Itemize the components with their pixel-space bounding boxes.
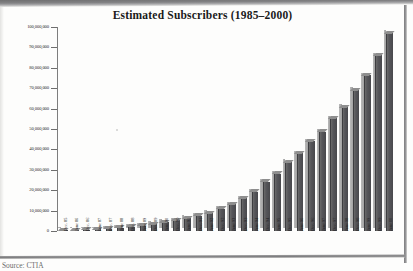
x-axis-tick-label: June 88 [119,218,124,231]
y-axis-tick-label: 40,000,000 [3,146,49,151]
scan-page-top-edge [0,0,413,7]
bar [317,132,326,231]
x-axis-tick-label: Dec. 87 [108,218,113,231]
y-axis-tick [51,149,57,150]
x-axis-tick-label: Dec. 95 [287,218,292,231]
x-axis-tick-label: June 92 [209,218,214,231]
bar-front-face [319,132,326,231]
bar-front-face [386,33,393,231]
x-axis-tick-label: June 95 [276,218,281,231]
y-axis-tick-label: 30,000,000 [3,167,49,172]
x-axis-tick-label: June 93 [231,218,236,231]
bar-front-face [353,90,360,231]
y-axis-tick [51,190,57,191]
y-axis-tick-label: 80,000,000 [3,65,49,70]
y-axis-tick-label: 90,000,000 [3,44,49,49]
bar [350,90,359,231]
x-axis-tick-label: June 97 [321,218,326,231]
bar [373,55,382,231]
x-axis-tick-label: June 94 [254,218,259,231]
x-axis-tick-label: June 00 [388,218,393,231]
x-axis-labels: Dec. 85June 86Dec. 86June 87Dec. 87June … [57,231,405,265]
bar [339,107,348,231]
y-axis-tick [51,109,57,110]
x-axis-tick-label: Dec. 98 [355,218,360,231]
y-axis-tick [51,88,57,89]
y-axis-tick-label: 0 [3,228,49,233]
y-axis-tick-label: 60,000,000 [3,106,49,111]
x-axis-tick-label: Dec. 90 [175,218,180,231]
x-axis-tick-label: Dec. 94 [265,218,270,231]
bar [361,75,370,231]
y-axis-tick [51,211,57,212]
bar-front-face [364,75,371,231]
x-axis-tick-label: June 91 [186,218,191,231]
y-axis-tick [51,170,57,171]
y-axis-tick-label: 20,000,000 [3,187,49,192]
x-axis-tick-label: Dec. 86 [85,218,90,231]
x-axis-tick-label: June 98 [344,218,349,231]
y-axis-tick [51,68,57,69]
y-axis-tick [51,27,57,28]
y-axis-tick-label: 50,000,000 [3,126,49,131]
x-axis-tick-label: Dec. 96 [310,218,315,231]
y-axis-tick [51,231,57,232]
bar-front-face [330,118,337,231]
bar [328,118,337,231]
x-axis-tick-label: Dec. 93 [243,218,248,231]
x-axis-tick-label: June 89 [142,218,147,231]
x-axis-tick-label: Dec. 88 [130,218,135,231]
chart-title: Estimated Subscribers (1985–2000) [0,9,405,21]
x-axis-tick-label: Dec. 89 [153,218,158,231]
y-axis-labels: 010,000,00020,000,00030,000,00040,000,00… [0,0,49,271]
source-note: Source: CTIA [2,261,44,270]
bar-front-face [342,107,349,231]
x-axis-tick-label: June 87 [97,218,102,231]
x-axis-tick-label: June 86 [74,218,79,231]
bar [384,33,393,231]
x-axis-tick-label: June 96 [299,218,304,231]
x-axis-tick-label: Dec. 97 [332,218,337,231]
x-axis-tick-label: Dec. 92 [220,218,225,231]
x-axis-tick-label: June 90 [164,218,169,231]
x-axis-tick-label: Dec. 91 [198,218,203,231]
y-axis-tick-label: 100,000,000 [3,24,49,29]
scanned-page: Estimated Subscribers (1985–2000) 010,00… [0,0,413,271]
bar-series [57,27,405,231]
x-axis-tick-label: Dec. 85 [63,218,68,231]
y-axis-tick [51,47,57,48]
x-axis-tick-label: June 99 [366,218,371,231]
y-axis-tick-label: 70,000,000 [3,85,49,90]
y-axis-tick-label: 10,000,000 [3,208,49,213]
y-axis-tick [51,129,57,130]
x-axis-tick-label: Dec. 99 [377,218,382,231]
bar-front-face [375,55,382,231]
